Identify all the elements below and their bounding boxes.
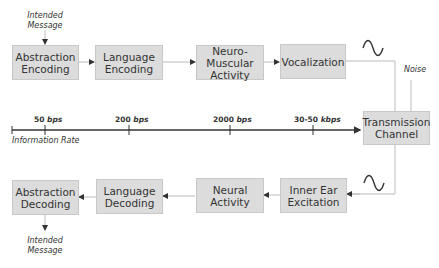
inner-ear-excitation-box: Inner EarExcitation — [280, 178, 347, 213]
tick-value: 2000 — [213, 115, 234, 124]
label-line: Intended — [25, 236, 65, 246]
noise-label: Noise — [400, 65, 430, 75]
label-line: Message — [25, 21, 65, 31]
rate-tick-2000bps: 2000 bps — [213, 115, 252, 124]
language-decoding-box: LanguageDecoding — [96, 179, 163, 214]
vocalization-box: Vocalization — [280, 44, 346, 79]
tick-value: 50 — [34, 115, 44, 124]
language-encoding-box: LanguageEncoding — [95, 45, 163, 80]
abstraction-decoding-box: AbstractionDecoding — [12, 180, 79, 215]
transmission-channel-box: TransmissionChannel — [363, 111, 430, 145]
tick-unit: bps — [47, 115, 62, 124]
tick-value: 200 — [115, 115, 131, 124]
information-rate-label: Information Rate — [12, 136, 80, 146]
box-label: Decoding — [104, 197, 156, 209]
rate-tick-200bps: 200 bps — [115, 115, 148, 124]
box-label: Abstraction — [15, 51, 75, 63]
box-label: Neuro-Muscular — [197, 45, 263, 69]
sine-wave-icon — [363, 41, 383, 56]
box-label: Abstraction — [15, 186, 75, 198]
box-label: Activity — [210, 196, 249, 208]
box-label: Vocalization — [282, 56, 345, 68]
intended-message-label-top: Intended Message — [25, 11, 65, 31]
rate-tick-30-50kbps: 30-50 kbps — [294, 115, 341, 124]
box-label: Decoding — [15, 198, 75, 210]
box-label: Inner Ear — [287, 184, 339, 196]
neuro-muscular-activity-box: Neuro-MuscularActivity — [196, 45, 264, 80]
sine-wave-icon — [364, 176, 384, 191]
tick-unit: bps — [133, 115, 148, 124]
intended-message-label-bottom: Intended Message — [25, 236, 65, 256]
box-label: Language — [104, 185, 156, 197]
box-label: Neural — [210, 184, 249, 196]
box-label: Channel — [363, 128, 431, 140]
neural-activity-box: NeuralActivity — [196, 178, 264, 213]
tick-unit: kbps — [321, 115, 341, 124]
box-label: Encoding — [15, 63, 75, 75]
tick-value: 30-50 — [294, 115, 318, 124]
label-line: Intended — [25, 11, 65, 21]
rate-tick-50bps: 50 bps — [34, 115, 62, 124]
box-label: Excitation — [287, 196, 339, 208]
abstraction-encoding-box: AbstractionEncoding — [12, 45, 79, 80]
box-label: Transmission — [363, 116, 431, 128]
box-label: Language — [103, 51, 155, 63]
box-label: Activity — [197, 69, 263, 81]
box-label: Encoding — [103, 63, 155, 75]
tick-unit: bps — [237, 115, 252, 124]
label-line: Message — [25, 246, 65, 256]
